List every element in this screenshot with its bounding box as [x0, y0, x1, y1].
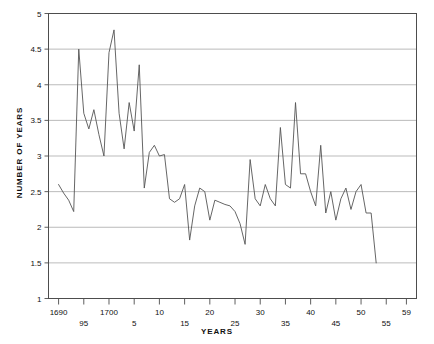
x-tick-label: 40 [306, 308, 315, 317]
data-line [59, 30, 377, 263]
x-tick-label: 30 [256, 308, 265, 317]
y-tick-label: 2 [37, 223, 42, 232]
x-tick-label: 1700 [100, 308, 118, 317]
y-tick-label: 4.5 [30, 45, 42, 54]
y-tick-label: 3.5 [30, 116, 42, 125]
y-tick-label: 3 [37, 152, 42, 161]
x-tick-label: 50 [357, 308, 366, 317]
y-tick-label: 5 [37, 10, 42, 19]
y-axis-ticks [45, 14, 49, 299]
x-axis-ticks [59, 299, 407, 305]
y-tick-label: 4 [37, 81, 42, 90]
y-tick-label: 2.5 [30, 188, 42, 197]
y-axis-title: NUMBER OF YEARS [15, 98, 24, 208]
line-chart: 11.522.533.544.55 1690951700510152025303… [0, 0, 434, 344]
y-axis-tick-labels: 11.522.533.544.55 [30, 10, 42, 304]
x-tick-label: 10 [155, 308, 164, 317]
y-tick-label: 1 [37, 295, 42, 304]
data-series-layer [59, 30, 377, 263]
x-axis-title: YEARS [0, 327, 434, 336]
gridlines [49, 14, 417, 263]
x-tick-label: 59 [402, 308, 411, 317]
x-tick-label: 1690 [50, 308, 68, 317]
x-axis-tick-labels: 169095170051015202530354045505559 [50, 308, 412, 328]
chart-container: 11.522.533.544.55 1690951700510152025303… [0, 0, 434, 344]
y-tick-label: 1.5 [30, 259, 42, 268]
x-tick-label: 20 [205, 308, 214, 317]
